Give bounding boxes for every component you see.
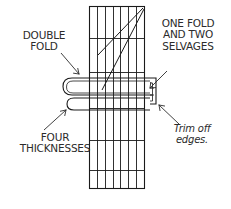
label-four-thicknesses: FOUR THICKNESSES — [2, 132, 108, 155]
label-trim-off-edges: Trim off edges. — [160, 124, 224, 146]
label-one-fold-and-two-selvages: ONE FOLD AND TWO SELVAGES — [146, 18, 230, 52]
label-double-fold: DOUBLE FOLD — [8, 30, 80, 53]
